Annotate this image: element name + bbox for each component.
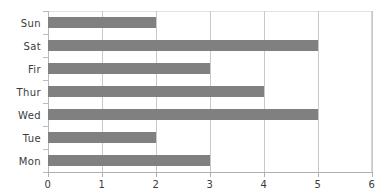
- x-axis-label-6: 6: [369, 179, 376, 190]
- x-axis-tick-0: [48, 172, 49, 177]
- gridline-x-6: [372, 11, 373, 172]
- x-axis-label-0: 0: [45, 179, 52, 190]
- x-axis-label-4: 4: [261, 179, 268, 190]
- y-axis-label-sun: Sun: [0, 17, 41, 28]
- x-axis-label-3: 3: [207, 179, 214, 190]
- y-axis-label-wed: Wed: [0, 109, 41, 120]
- bar-mon: [48, 155, 210, 166]
- bar-row: [48, 57, 372, 80]
- x-axis-label-1: 1: [99, 179, 106, 190]
- x-axis-label-5: 5: [315, 179, 322, 190]
- x-axis-tick-1: [102, 172, 103, 177]
- y-axis-label-tue: Tue: [0, 132, 41, 143]
- bar-wed: [48, 109, 318, 120]
- bar-row: [48, 34, 372, 57]
- x-axis-label-2: 2: [153, 179, 160, 190]
- x-axis-tick-6: [372, 172, 373, 177]
- bar-sun: [48, 17, 156, 28]
- bar-row: [48, 80, 372, 103]
- bar-thur: [48, 86, 264, 97]
- x-axis-tick-4: [264, 172, 265, 177]
- bar-row: [48, 126, 372, 149]
- bars-layer: [48, 11, 372, 172]
- bar-fir: [48, 63, 210, 74]
- x-axis-tick-3: [210, 172, 211, 177]
- y-axis-label-mon: Mon: [0, 155, 41, 166]
- bar-tue: [48, 132, 156, 143]
- plot-area: [48, 11, 372, 172]
- bar-row: [48, 11, 372, 34]
- bar-chart: SunSatFirThurWedTueMon 0123456: [0, 0, 388, 194]
- bar-row: [48, 149, 372, 172]
- bar-row: [48, 103, 372, 126]
- y-axis-label-thur: Thur: [0, 86, 41, 97]
- bar-sat: [48, 40, 318, 51]
- x-axis-tick-5: [318, 172, 319, 177]
- y-axis-label-sat: Sat: [0, 40, 41, 51]
- x-axis-tick-2: [156, 172, 157, 177]
- y-axis-label-fir: Fir: [0, 63, 41, 74]
